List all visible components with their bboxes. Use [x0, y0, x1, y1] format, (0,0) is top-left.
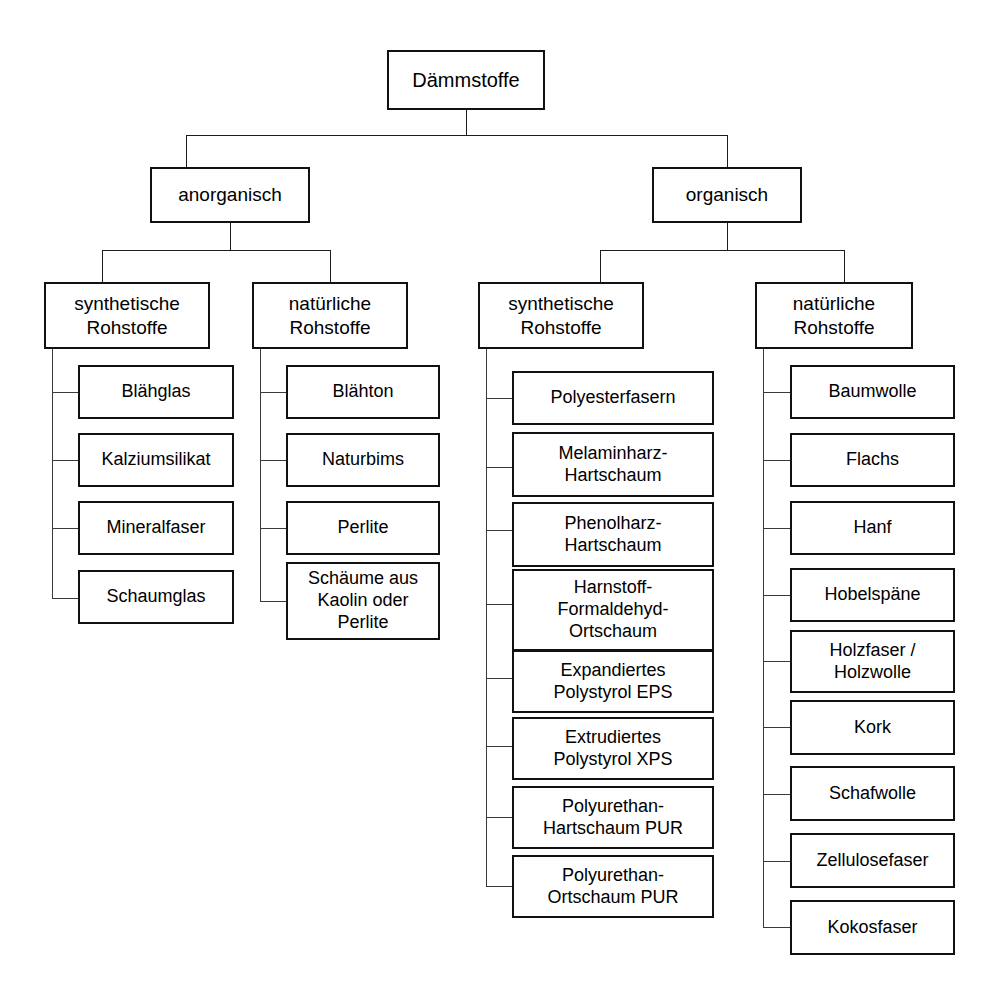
- node-label: Blähton: [328, 381, 397, 403]
- leaf-mineralfaser: Mineralfaser: [78, 501, 234, 555]
- node-label: Flachs: [842, 449, 903, 471]
- stub-org-nat-7: [763, 794, 790, 795]
- node-anorganisch-natuerliche-rohstoffe: natürliche Rohstoffe: [252, 282, 408, 349]
- node-label: Zellulosefaser: [812, 850, 932, 872]
- stub-org-synth-8: [486, 886, 512, 887]
- node-label: Holzfaser / Holzwolle: [825, 640, 919, 684]
- leaf-kokosfaser: Kokosfaser: [790, 900, 955, 955]
- leaf-kalziumsilikat: Kalziumsilikat: [78, 433, 234, 487]
- spine-anorg-nat: [260, 349, 261, 602]
- stub-org-nat-9: [763, 927, 790, 928]
- node-label: Harnstoff- Formaldehyd- Ortschaum: [553, 577, 672, 643]
- node-label: Kalziumsilikat: [97, 449, 214, 471]
- node-label: Kork: [850, 717, 895, 739]
- node-label: natürliche Rohstoffe: [285, 292, 375, 338]
- node-label: Perlite: [333, 517, 392, 539]
- leaf-expandiertes-polystyrol-eps: Expandiertes Polystyrol EPS: [512, 650, 714, 713]
- node-label: organisch: [682, 183, 772, 206]
- stub-anorg-synth-3: [52, 528, 78, 529]
- leaf-polyesterfasern: Polyesterfasern: [512, 371, 714, 425]
- connector-root-down: [466, 110, 467, 135]
- stub-org-nat-3: [763, 528, 790, 529]
- node-label: Polyesterfasern: [546, 387, 679, 409]
- node-anorganisch-synthetische-rohstoffe: synthetische Rohstoffe: [44, 282, 210, 349]
- connector-to-anorg-nat: [330, 250, 331, 282]
- node-label: anorganisch: [174, 183, 286, 206]
- leaf-kork: Kork: [790, 700, 955, 755]
- stub-org-synth-4: [486, 604, 512, 605]
- leaf-holzfaser-holzwolle: Holzfaser / Holzwolle: [790, 630, 955, 693]
- connector-anorganisch-down: [230, 223, 231, 250]
- connector-anorganisch-bus: [102, 250, 330, 251]
- node-label: Melaminharz- Hartschaum: [554, 443, 671, 487]
- spine-org-synth: [486, 349, 487, 887]
- node-label: Blähglas: [117, 381, 194, 403]
- stub-org-synth-5: [486, 678, 512, 679]
- connector-organisch-bus: [600, 250, 844, 251]
- connector-to-organisch: [727, 135, 728, 167]
- leaf-zellulosefaser: Zellulosefaser: [790, 833, 955, 888]
- node-label: Schäume aus Kaolin oder Perlite: [304, 568, 422, 634]
- stub-anorg-synth-1: [52, 392, 78, 393]
- leaf-perlite: Perlite: [286, 501, 440, 555]
- leaf-phenolharz-hartschaum: Phenolharz- Hartschaum: [512, 502, 714, 567]
- leaf-schaeume-aus-kaolin-oder-perlite: Schäume aus Kaolin oder Perlite: [286, 562, 440, 640]
- node-label: synthetische Rohstoffe: [70, 292, 184, 338]
- leaf-polyurethan-ortschaum-pur: Polyurethan- Ortschaum PUR: [512, 855, 714, 918]
- leaf-hanf: Hanf: [790, 501, 955, 555]
- stub-anorg-nat-1: [260, 392, 286, 393]
- connector-to-org-synth: [600, 250, 601, 282]
- leaf-blaehton: Blähton: [286, 365, 440, 419]
- stub-org-synth-7: [486, 817, 512, 818]
- node-label: Dämmstoffe: [408, 68, 523, 92]
- stub-org-nat-6: [763, 727, 790, 728]
- stub-org-nat-4: [763, 595, 790, 596]
- spine-anorg-synth: [52, 349, 53, 599]
- stub-org-synth-2: [486, 467, 512, 468]
- node-label: Naturbims: [318, 449, 408, 471]
- insulation-materials-tree-diagram: Dämmstoffe anorganisch organisch synthet…: [0, 0, 988, 991]
- leaf-melaminharz-hartschaum: Melaminharz- Hartschaum: [512, 432, 714, 497]
- stub-org-nat-2: [763, 460, 790, 461]
- leaf-harnstoff-formaldehyd-ortschaum: Harnstoff- Formaldehyd- Ortschaum: [512, 569, 714, 651]
- node-label: Kokosfaser: [823, 917, 921, 939]
- node-label: Phenolharz- Hartschaum: [560, 513, 665, 557]
- node-label: Hanf: [849, 517, 895, 539]
- leaf-flachs: Flachs: [790, 433, 955, 487]
- node-label: Polyurethan- Hartschaum PUR: [539, 796, 687, 840]
- node-organisch-natuerliche-rohstoffe: natürliche Rohstoffe: [755, 282, 913, 349]
- node-label: Schaumglas: [102, 586, 209, 608]
- stub-org-synth-1: [486, 398, 512, 399]
- stub-org-nat-1: [763, 392, 790, 393]
- node-anorganisch: anorganisch: [150, 167, 310, 223]
- node-label: synthetische Rohstoffe: [504, 292, 618, 338]
- leaf-schaumglas: Schaumglas: [78, 570, 234, 624]
- connector-root-bus: [186, 135, 727, 136]
- connector-organisch-down: [727, 223, 728, 250]
- leaf-polyurethan-hartschaum-pur: Polyurethan- Hartschaum PUR: [512, 786, 714, 849]
- node-label: Expandiertes Polystyrol EPS: [549, 660, 676, 704]
- stub-org-synth-3: [486, 530, 512, 531]
- connector-to-anorganisch: [186, 135, 187, 167]
- leaf-naturbims: Naturbims: [286, 433, 440, 487]
- leaf-extrudiertes-polystyrol-xps: Extrudiertes Polystyrol XPS: [512, 717, 714, 780]
- leaf-schafwolle: Schafwolle: [790, 766, 955, 821]
- node-label: Schafwolle: [825, 783, 920, 805]
- stub-anorg-synth-2: [52, 460, 78, 461]
- leaf-blaehglas: Blähglas: [78, 365, 234, 419]
- node-label: Mineralfaser: [102, 517, 209, 539]
- stub-org-synth-6: [486, 746, 512, 747]
- stub-org-nat-8: [763, 861, 790, 862]
- node-label: Baumwolle: [824, 381, 920, 403]
- spine-org-nat: [763, 349, 764, 927]
- node-label: Polyurethan- Ortschaum PUR: [543, 865, 682, 909]
- node-organisch-synthetische-rohstoffe: synthetische Rohstoffe: [478, 282, 644, 349]
- stub-anorg-nat-2: [260, 460, 286, 461]
- stub-anorg-synth-4: [52, 598, 78, 599]
- node-label: natürliche Rohstoffe: [789, 292, 879, 338]
- connector-to-org-nat: [844, 250, 845, 282]
- connector-to-anorg-synth: [102, 250, 103, 282]
- leaf-baumwolle: Baumwolle: [790, 365, 955, 419]
- node-label: Hobelspäne: [820, 584, 924, 606]
- stub-anorg-nat-4: [260, 601, 286, 602]
